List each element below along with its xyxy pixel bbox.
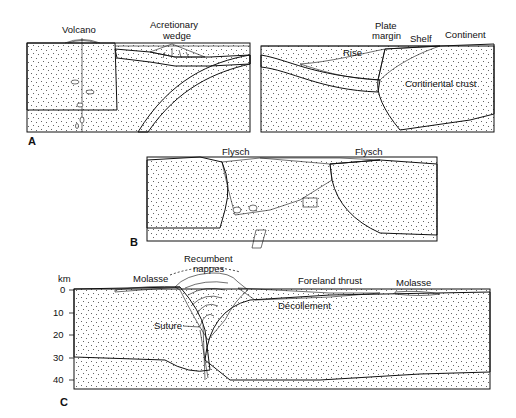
label-foreland-thrust: Foreland thrust (298, 275, 362, 286)
axis-tick-30: 30 (53, 352, 64, 363)
label-flysch-right: Flysch (355, 146, 382, 157)
panel-a-left-section (27, 38, 250, 132)
label-volcano: Volcano (62, 24, 96, 35)
label-flysch-left: Flysch (222, 146, 249, 157)
label-accretionary-wedge-2: wedge (162, 30, 191, 41)
label-molasse-left: Molasse (133, 273, 168, 284)
panel-letter-b: B (130, 236, 138, 248)
label-decollement: Décollement (278, 300, 331, 311)
label-shelf: Shelf (410, 33, 432, 44)
label-recumbent-nappes-2: nappes (193, 263, 224, 274)
axis-tick-10: 10 (53, 307, 64, 318)
panel-c: km 0 10 20 30 40 Recumbent nappes Molass… (53, 253, 490, 408)
axis-tick-40: 40 (53, 374, 64, 385)
axis-tick-20: 20 (53, 329, 64, 340)
label-continent: Continent (445, 29, 486, 40)
label-plate-margin-2: margin (372, 30, 401, 41)
label-suture: Suture (154, 320, 182, 331)
depth-axis: km 0 10 20 30 40 (53, 273, 74, 385)
collision-orogeny-diagram: Volcano Acretionary wedge Plate margin S… (0, 0, 516, 418)
panel-letter-a: A (28, 135, 36, 147)
label-molasse-right: Molasse (396, 277, 431, 288)
axis-tick-0: 0 (60, 284, 65, 295)
panel-letter-c: C (60, 396, 68, 408)
label-rise: Rise (343, 47, 362, 58)
panel-b: Flysch Flysch B (130, 146, 437, 248)
label-accretionary-wedge-1: Acretionary (150, 19, 198, 30)
panel-a: Volcano Acretionary wedge Plate margin S… (27, 19, 494, 147)
label-continental-crust: Continental crust (405, 78, 477, 89)
axis-unit-km: km (58, 273, 71, 284)
